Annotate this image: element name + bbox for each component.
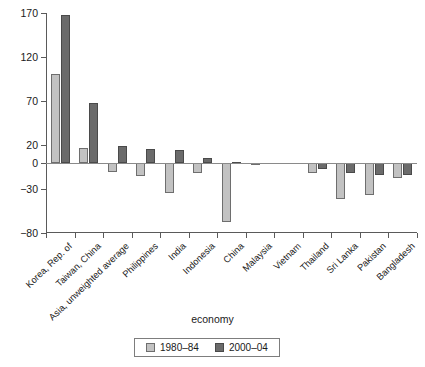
x-axis-tick-label: Vietnam [271,241,303,272]
legend-item-2000-04: 2000–04 [215,342,268,353]
zero-baseline [46,163,417,164]
x-axis-tick [417,233,418,238]
x-axis-tick [274,233,275,238]
plot-frame [46,13,417,233]
chart-legend: 1980–84 2000–04 [134,338,280,357]
y-axis-tick-label: −80 [0,228,38,239]
x-axis-tick [46,233,47,238]
legend-label-2000-04: 2000–04 [229,342,268,353]
y-axis-tick-label: 0 [0,158,38,169]
legend-swatch-2000-04 [215,343,224,352]
x-axis-tick [360,233,361,238]
y-axis-tick-label: 70 [0,96,38,107]
x-axis-tick-label: India [167,241,189,263]
chart-container: RRA, % 17012070200−30−80 Korea, Rep. ofT… [0,0,425,367]
x-axis-tick [103,233,104,238]
x-axis-tick [246,233,247,238]
x-axis-tick [331,233,332,238]
legend-swatch-1980-84 [146,343,155,352]
y-axis-tick-label: −30 [0,184,38,195]
x-axis-tick-label: Malaysia [241,241,275,274]
x-axis-tick [388,233,389,238]
x-axis-title: economy [0,313,425,325]
x-axis-tick [303,233,304,238]
x-axis-tick [217,233,218,238]
y-axis-tick-label: 20 [0,140,38,151]
x-axis-tick [160,233,161,238]
x-axis-tick [189,233,190,238]
x-axis-tick-label: China [221,241,246,265]
legend-label-1980-84: 1980–84 [160,342,199,353]
legend-item-1980-84: 1980–84 [146,342,199,353]
y-axis-tick-label: 120 [0,52,38,63]
y-axis-tick-label: 170 [0,8,38,19]
x-axis-tick [132,233,133,238]
x-axis-tick [75,233,76,238]
